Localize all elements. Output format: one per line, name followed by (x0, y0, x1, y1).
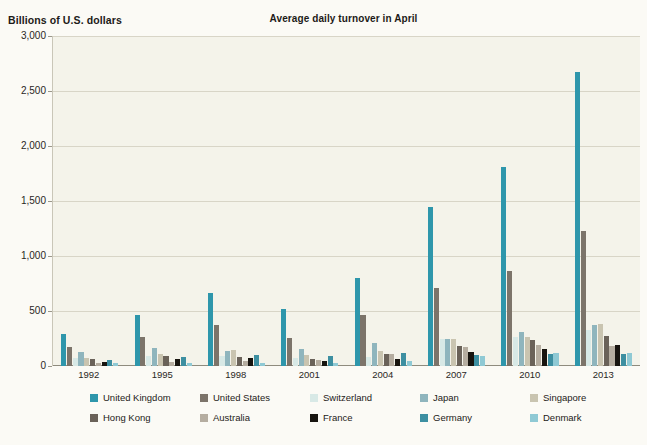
y-tick-label: 3,000 (2, 31, 46, 41)
bar (293, 358, 298, 366)
bar (384, 354, 389, 366)
x-tick-label: 2004 (346, 369, 420, 385)
bar (609, 346, 614, 366)
bar (434, 288, 439, 366)
bar (536, 345, 541, 366)
legend-item[interactable]: Hong Kong (90, 412, 200, 423)
bar (530, 340, 535, 366)
bar (480, 356, 485, 366)
legend-item[interactable]: United States (200, 392, 310, 403)
legend-label: Japan (433, 392, 459, 403)
bar (304, 355, 309, 366)
bar (175, 359, 180, 366)
bar (90, 359, 95, 366)
bar (158, 354, 163, 366)
bar (507, 271, 512, 366)
bar (169, 362, 174, 367)
bar (107, 360, 112, 366)
bar-group (420, 36, 493, 366)
legend-label: United Kingdom (103, 392, 171, 403)
bar (113, 363, 118, 366)
x-tick-label: 2013 (567, 369, 641, 385)
bar (163, 356, 168, 366)
legend-swatch (420, 414, 428, 422)
legend-label: Switzerland (323, 392, 372, 403)
bar (333, 363, 338, 366)
bar (146, 356, 151, 366)
legend-item[interactable]: France (310, 412, 420, 423)
bar (187, 363, 192, 366)
legend-label: Denmark (543, 412, 582, 423)
bar (78, 352, 83, 366)
bar (501, 167, 506, 366)
bar-group (273, 36, 346, 366)
bar (592, 325, 597, 366)
x-tick-label: 1998 (199, 369, 273, 385)
y-tick-label: 0 (2, 361, 46, 371)
bar (248, 358, 253, 366)
bar (61, 334, 66, 366)
y-tick-label: 2,000 (2, 141, 46, 151)
x-tick-label: 1995 (126, 369, 200, 385)
bar (281, 309, 286, 366)
bar (208, 293, 213, 366)
bar-group (200, 36, 273, 366)
bar (615, 345, 620, 366)
bar (378, 351, 383, 366)
bar (389, 354, 394, 366)
bar (542, 349, 547, 366)
y-axis-labels: 05001,0001,5002,0002,5003,000 (0, 36, 52, 366)
x-tick-label: 2007 (420, 369, 494, 385)
bar (604, 336, 609, 366)
bar (395, 359, 400, 366)
bar (372, 343, 377, 366)
legend-label: France (323, 412, 353, 423)
legend-swatch (310, 414, 318, 422)
bar (254, 355, 259, 366)
bar (440, 339, 445, 367)
legend-swatch (90, 394, 98, 402)
bar (468, 352, 473, 366)
legend-item[interactable]: Denmark (530, 412, 640, 423)
bar (260, 363, 265, 366)
bar (428, 207, 433, 367)
legend-item[interactable]: Australia (200, 412, 310, 423)
bar (445, 339, 450, 367)
bar (299, 349, 304, 366)
x-tick-label: 2010 (493, 369, 567, 385)
legend-item[interactable]: Japan (420, 392, 530, 403)
chart-container: Billions of U.S. dollars Average daily t… (0, 0, 647, 445)
bar (581, 231, 586, 366)
legend-item[interactable]: Singapore (530, 392, 640, 403)
bar (181, 357, 186, 366)
legend-swatch (310, 394, 318, 402)
bar (140, 337, 145, 366)
bar (225, 351, 230, 366)
legend-item[interactable]: Germany (420, 412, 530, 423)
legend-label: United States (213, 392, 270, 403)
bar (463, 347, 468, 366)
y-tick-label: 1,000 (2, 251, 46, 261)
bar (243, 361, 248, 366)
bar (575, 72, 580, 366)
bar (598, 324, 603, 366)
bar (474, 355, 479, 366)
bar (102, 362, 107, 366)
legend-swatch (530, 414, 538, 422)
legend-item[interactable]: United Kingdom (90, 392, 200, 403)
x-tick-label: 1992 (52, 369, 126, 385)
x-axis-labels: 19921995199820012004200720102013 (52, 369, 640, 385)
x-tick-label: 2001 (273, 369, 347, 385)
bar (360, 315, 365, 366)
bar (627, 353, 632, 366)
legend-swatch (420, 394, 428, 402)
bar (586, 330, 591, 366)
bar (407, 361, 412, 366)
bar (519, 332, 524, 366)
legend-label: Hong Kong (103, 412, 151, 423)
legend-item[interactable]: Switzerland (310, 392, 420, 403)
bar-group (567, 36, 640, 366)
bar-groups (53, 36, 640, 366)
bar (214, 325, 219, 366)
legend-label: Germany (433, 412, 472, 423)
